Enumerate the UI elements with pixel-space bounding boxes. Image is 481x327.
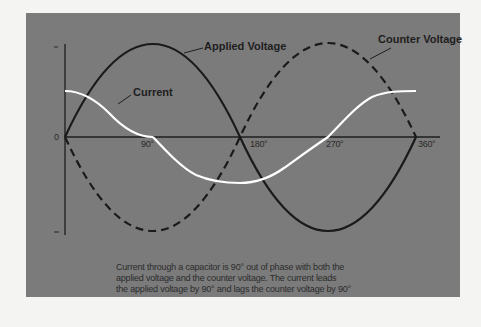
x-tick-270: 270° [326,139,343,149]
x-tick-90: 90° [141,139,154,149]
counter-leader [370,48,391,59]
y-zero-label: 0 [54,132,59,142]
current-label: Current [133,86,173,98]
caption-line-2: applied voltage and the counter voltage.… [116,273,416,284]
counter-voltage-label: Counter Voltage [378,33,462,45]
figure-caption: Current through a capacitor is 90° out o… [116,262,416,295]
applied-leader [184,48,203,53]
current-leader [118,95,131,104]
x-tick-360: 360° [418,139,435,149]
caption-line-1: Current through a capacitor is 90° out o… [116,262,416,273]
caption-line-3: the applied voltage by 90° and lags the … [116,284,416,295]
applied-voltage-label: Applied Voltage [204,40,286,52]
x-tick-180: 180° [250,139,267,149]
